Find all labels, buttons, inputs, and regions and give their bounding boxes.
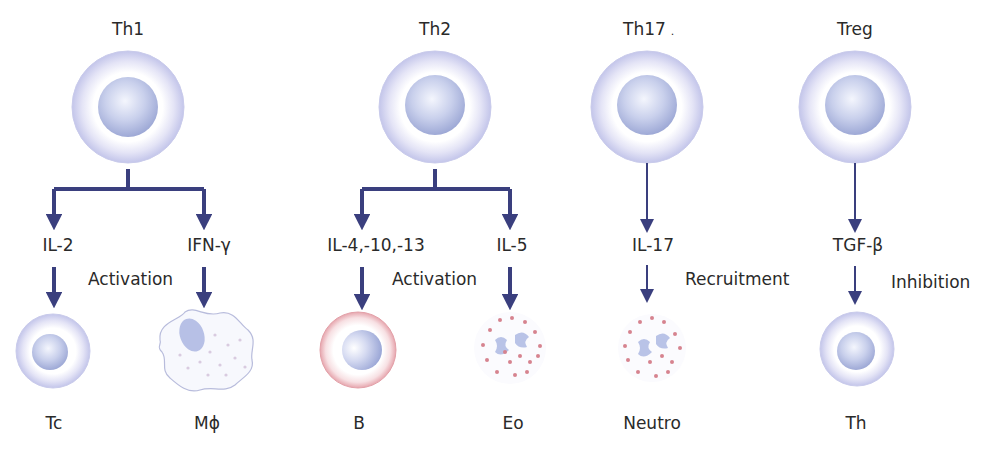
- effect-th1-activation: Activation: [88, 269, 173, 289]
- th17-label: Th17.: [623, 19, 674, 42]
- target-macrophage: Mϕ: [194, 413, 220, 433]
- th-cell: [820, 312, 894, 386]
- cytokine-il4-10-13: IL-4,-10,-13: [327, 235, 424, 255]
- effect-th2-activation: Activation: [392, 269, 477, 289]
- th2-label: Th2: [419, 19, 451, 39]
- th1-label: Th1: [112, 19, 144, 39]
- cytokine-il5: IL-5: [496, 235, 527, 255]
- target-b: B: [353, 413, 365, 433]
- macrophage-cell: [159, 310, 253, 391]
- target-neutro: Neutro: [623, 413, 681, 433]
- th17-cell: [591, 51, 703, 163]
- cytokine-ifn-gamma: IFN-γ: [187, 235, 231, 255]
- cytokine-il17: IL-17: [632, 235, 674, 255]
- th17-label-text: Th17: [623, 19, 666, 39]
- target-th: Th: [845, 413, 866, 433]
- cytokine-tgf-beta: TGF-β: [833, 235, 883, 255]
- cytokine-il2: IL-2: [42, 235, 73, 255]
- target-eo: Eo: [502, 413, 523, 433]
- eosinophil-cell: [474, 312, 546, 384]
- effect-th17-recruitment: Recruitment: [685, 269, 789, 289]
- treg-cell: [799, 51, 911, 163]
- target-tc: Tc: [46, 413, 63, 433]
- effect-treg-inhibition: Inhibition: [891, 272, 970, 292]
- treg-label: Treg: [837, 19, 873, 39]
- tc-cell: [16, 314, 90, 388]
- th1-cell: [72, 51, 184, 163]
- b-cell: [320, 312, 396, 388]
- neutrophil-cell: [618, 314, 686, 382]
- th2-cell: [379, 51, 491, 163]
- diagram-canvas: [0, 0, 992, 451]
- th17-label-mark: .: [671, 25, 675, 38]
